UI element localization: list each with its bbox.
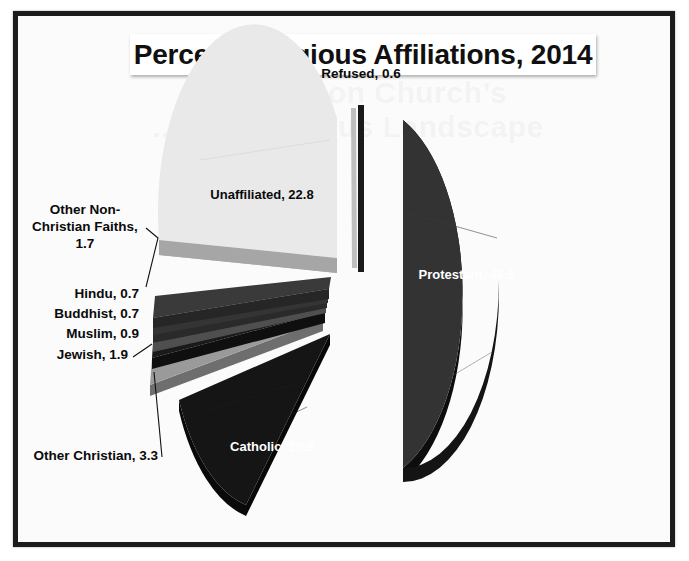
callout-label-other-non-christian-line3: 1.7 <box>76 236 95 251</box>
callout-label-other-non-christian-line2: Christian Faiths, <box>32 219 138 234</box>
callout-label-buddhist: Buddhist, 0.7 <box>54 306 139 321</box>
screenshot-root: the Mormon Church’s ... on Religious Lan… <box>0 0 689 561</box>
slice-label-refused: Refused, 0.6 <box>321 66 401 81</box>
slice-label-catholic: Catholic, 20.8 <box>230 439 314 454</box>
callout-other-non-christian: Other Non- Christian Faiths, 1.7 <box>32 202 158 287</box>
pie-chart-svg: Protestant, 46.5 Catholic, 20.8 <box>0 0 689 561</box>
slice-protestant[interactable]: Protestant, 46.5 <box>403 120 515 482</box>
pie-chart: Protestant, 46.5 Catholic, 20.8 <box>0 0 689 561</box>
callout-label-other-non-christian-line1: Other Non- <box>50 202 121 217</box>
callout-other-christian: Other Christian, 3.3 <box>33 372 162 463</box>
leader-line-jewish <box>133 344 152 357</box>
callout-label-hindu: Hindu, 0.7 <box>74 286 139 301</box>
callout-jewish: Jewish, 1.9 <box>57 344 152 362</box>
callout-label-other-christian: Other Christian, 3.3 <box>33 448 158 463</box>
callout-label-jewish: Jewish, 1.9 <box>57 347 128 362</box>
leader-line-other-non-christian <box>146 228 158 287</box>
callout-label-muslim: Muslim, 0.9 <box>66 326 139 341</box>
slice-label-unaffiliated: Unaffiliated, 22.8 <box>210 187 313 202</box>
slice-label-protestant: Protestant, 46.5 <box>419 267 516 282</box>
slice-unaffiliated[interactable]: Unaffiliated, 22.8 <box>158 24 337 273</box>
